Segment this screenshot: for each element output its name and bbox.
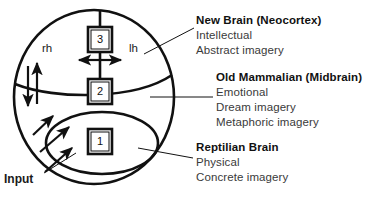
legend-reptilian-item: Physical: [196, 155, 288, 170]
legend-reptilian-title: Reptilian Brain: [196, 140, 288, 155]
legend-old-mammalian-item: Metaphoric imagery: [216, 115, 362, 130]
box-2-label: 2: [88, 79, 112, 103]
triune-brain-diagram: 3 2 1 rh lh Input New Brain (Neocortex) …: [0, 0, 382, 200]
leader-new-brain: [144, 28, 194, 54]
box-1-label: 1: [88, 129, 112, 153]
legend-reptilian-item: Concrete imagery: [196, 170, 288, 185]
input-label: Input: [4, 172, 33, 186]
legend-old-mammalian-title: Old Mammalian (Midbrain): [216, 70, 362, 85]
legend-new-brain-item: Abstract imagery: [196, 43, 321, 58]
legend-old-mammalian: Old Mammalian (Midbrain) Emotional Dream…: [216, 70, 362, 130]
legend-old-mammalian-item: Emotional: [216, 85, 362, 100]
legend-reptilian: Reptilian Brain Physical Concrete imager…: [196, 140, 288, 185]
right-hemisphere-label: rh: [42, 42, 52, 54]
legend-new-brain-title: New Brain (Neocortex): [196, 13, 321, 28]
input-arrow-2: [40, 127, 69, 152]
legend-new-brain: New Brain (Neocortex) Intellectual Abstr…: [196, 13, 321, 58]
legend-old-mammalian-item: Dream imagery: [216, 100, 362, 115]
leader-reptilian: [138, 148, 193, 158]
left-hemisphere-label: lh: [129, 42, 138, 54]
box-3-label: 3: [88, 27, 112, 51]
legend-new-brain-item: Intellectual: [196, 28, 321, 43]
